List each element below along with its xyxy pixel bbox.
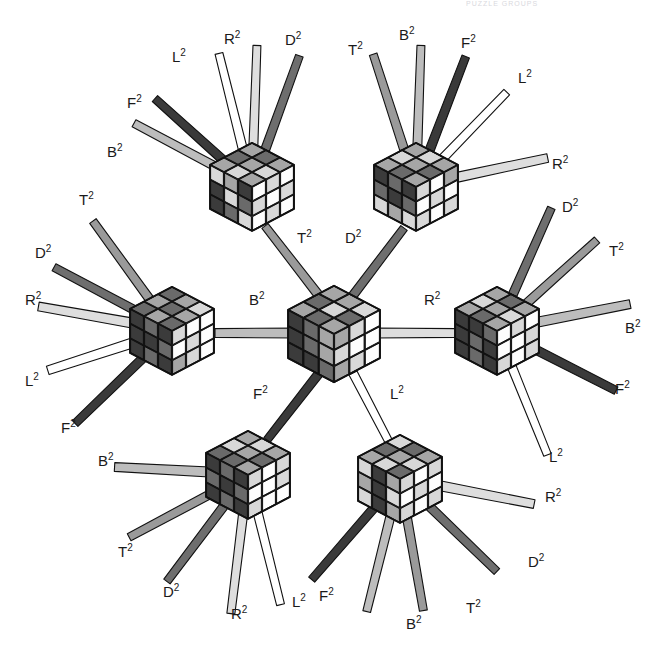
move-bar-b2 <box>413 45 425 147</box>
spoke-bottom-right-R2[interactable] <box>437 481 535 509</box>
spoke-left-L2[interactable] <box>46 337 136 374</box>
spoke-bottom-right-T2-label: T2 <box>466 598 481 616</box>
spoke-right-L2-label: L2 <box>549 447 563 465</box>
spoke-bottom-right-T2[interactable] <box>402 515 427 611</box>
edge-center-right-label: R2 <box>424 290 441 308</box>
edge-center-bottom-right-label: L2 <box>390 384 404 402</box>
spoke-top-left-D2[interactable] <box>261 54 303 151</box>
move-bar-r2 <box>249 45 261 147</box>
spoke-left-F2-label: F2 <box>61 418 76 436</box>
spoke-left-T2-label: T2 <box>79 190 94 208</box>
spoke-bottom-right-D2[interactable] <box>425 502 500 575</box>
move-bar-b2 <box>215 328 297 338</box>
move-bar-l2 <box>507 364 551 456</box>
move-bar-f2 <box>309 504 378 582</box>
spoke-bottom-right-B2-label: B2 <box>406 614 422 632</box>
edge-center-bottom-left-label: F2 <box>253 384 268 402</box>
move-bar-d2 <box>425 502 500 575</box>
spoke-top-right-B2[interactable] <box>413 45 425 147</box>
spoke-top-right-R2[interactable] <box>453 154 549 183</box>
spoke-bottom-right-R2-label: R2 <box>545 487 562 505</box>
spoke-bottom-left-L2-label: L2 <box>292 592 306 610</box>
spoke-bottom-left-R2-label: R2 <box>231 604 248 622</box>
edge-center-right[interactable] <box>374 328 456 338</box>
edge-center-bottom-left[interactable] <box>264 369 324 442</box>
spoke-top-right-T2[interactable] <box>369 53 408 151</box>
move-bar-r2 <box>437 481 535 509</box>
cube-graph-diagram: T2D2B2R2F2L2B2F2L2R2D2T2B2F2L2R2T2D2R2L2… <box>0 0 660 654</box>
move-bar-t2 <box>262 224 324 300</box>
spoke-right-D2-label: D2 <box>562 197 579 215</box>
spoke-bottom-right-F2-label: F2 <box>319 586 334 604</box>
spoke-top-left-F2-label: F2 <box>127 93 142 111</box>
move-bar-b2 <box>114 463 209 477</box>
spoke-bottom-right-D2-label: D2 <box>528 552 545 570</box>
spoke-left-D2-label: D2 <box>35 243 52 261</box>
move-bar-b2 <box>534 300 631 328</box>
spoke-right-T2-label: T2 <box>609 241 624 259</box>
spoke-top-left-R2-label: R2 <box>224 29 241 47</box>
spoke-top-right-F2-label: F2 <box>461 33 476 51</box>
spoke-right-B2-label: B2 <box>625 318 641 336</box>
move-bar-l2 <box>46 337 136 374</box>
move-bar-f2 <box>264 369 324 442</box>
spoke-left-F2[interactable] <box>72 354 147 427</box>
spoke-top-right-R2-label: R2 <box>552 154 569 172</box>
move-bar-r2 <box>227 512 248 614</box>
spoke-bottom-left-T2-label: T2 <box>118 542 133 560</box>
edge-center-left[interactable] <box>215 328 297 338</box>
move-bar-t2 <box>402 515 427 611</box>
spoke-bottom-left-L2[interactable] <box>253 510 284 605</box>
spoke-bottom-left-R2[interactable] <box>227 512 248 614</box>
spoke-top-left-B2-label: B2 <box>107 142 123 160</box>
move-bar-t2 <box>369 53 408 151</box>
move-bar-l2 <box>253 510 284 605</box>
spoke-right-F2[interactable] <box>529 344 618 395</box>
edge-center-left-label: B2 <box>249 290 265 308</box>
move-bar-f2 <box>72 354 147 427</box>
figure-root: PUZZLE GROUPS T2D2B2R2F2L2B2F2L2R2D2T2B2… <box>0 0 660 654</box>
spoke-bottom-left-B2[interactable] <box>114 463 209 477</box>
spoke-bottom-right-B2[interactable] <box>363 514 395 612</box>
move-bar-b2 <box>363 514 395 612</box>
spoke-bottom-right-F2[interactable] <box>309 504 378 582</box>
move-bar-r2 <box>374 328 456 338</box>
spoke-left-L2-label: L2 <box>25 371 39 389</box>
move-bar-f2 <box>529 344 618 395</box>
spoke-top-right-B2-label: B2 <box>399 25 415 43</box>
spoke-top-left-D2-label: D2 <box>285 30 302 48</box>
move-bar-l2 <box>349 371 393 444</box>
spoke-top-left-L2-label: L2 <box>172 47 186 65</box>
move-bar-r2 <box>453 154 549 183</box>
spoke-top-right-L2-label: L2 <box>518 68 532 86</box>
edge-center-top-left[interactable] <box>262 224 324 300</box>
spoke-bottom-left-B2-label: B2 <box>98 451 114 469</box>
move-bar-l2 <box>215 53 247 150</box>
spoke-right-F2-label: F2 <box>615 379 630 397</box>
spoke-top-right-T2-label: T2 <box>348 40 363 58</box>
move-bar-d2 <box>261 54 303 151</box>
edge-center-bottom-right[interactable] <box>349 371 393 444</box>
spoke-top-left-R2[interactable] <box>249 45 261 147</box>
spoke-top-left-L2[interactable] <box>215 53 247 150</box>
spoke-right-B2[interactable] <box>534 300 631 328</box>
edge-center-top-right-label: D2 <box>345 228 362 246</box>
spoke-bottom-left-D2-label: D2 <box>163 582 180 600</box>
center-cube[interactable] <box>288 286 380 383</box>
spoke-right-L2[interactable] <box>507 364 551 456</box>
edge-center-top-left-label: T2 <box>297 228 312 246</box>
